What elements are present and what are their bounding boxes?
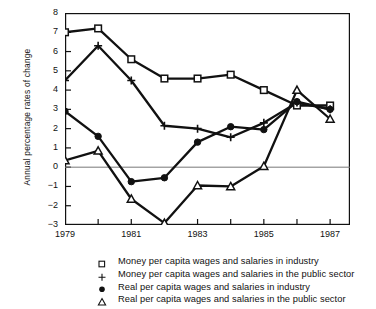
axis-frame xyxy=(66,14,350,225)
y-tick-label: 5 xyxy=(36,65,58,75)
data-point xyxy=(327,106,333,112)
data-point xyxy=(260,162,268,169)
data-point xyxy=(261,126,267,132)
y-tick-label: 1 xyxy=(36,142,58,152)
y-tick-label: 0 xyxy=(36,161,58,171)
data-point xyxy=(161,75,168,82)
y-axis-title: Annual percentage rates of change xyxy=(22,12,32,222)
data-point xyxy=(294,98,300,104)
legend-label: Money per capita wages and salaries in i… xyxy=(118,256,319,266)
y-tick-label: −3 xyxy=(36,219,58,229)
legend-label: Money per capita wages and salaries in t… xyxy=(118,269,354,279)
open-triangle-symbol xyxy=(96,294,110,306)
plus-symbol xyxy=(96,269,110,281)
data-point xyxy=(95,25,102,32)
y-tick-label: −1 xyxy=(36,180,58,190)
chart-canvas xyxy=(65,13,350,225)
data-point xyxy=(65,29,68,36)
x-tick-label: 1979 xyxy=(45,229,85,239)
x-tick-label: 1985 xyxy=(244,229,284,239)
data-point xyxy=(261,87,268,94)
series-line xyxy=(65,28,330,105)
series-line xyxy=(65,90,330,223)
y-tick-label: 8 xyxy=(36,7,58,17)
chart-figure: Annual percentage rates of change −3−2−1… xyxy=(0,0,376,309)
legend-label: Real per capita wages and salaries in th… xyxy=(118,294,346,304)
x-tick-label: 1983 xyxy=(178,229,218,239)
legend-label: Real per capita wages and salaries in in… xyxy=(118,282,310,292)
data-point xyxy=(128,56,135,63)
y-tick-label: 2 xyxy=(36,123,58,133)
plot-area xyxy=(65,13,350,225)
y-tick-label: 4 xyxy=(36,84,58,94)
y-tick-label: 7 xyxy=(36,26,58,36)
data-point xyxy=(161,175,167,181)
series-markers xyxy=(65,25,334,225)
filled-circle-symbol xyxy=(96,281,110,293)
axis-ticks xyxy=(65,13,330,225)
legend-item: Real per capita wages and salaries in th… xyxy=(96,294,366,307)
data-point xyxy=(94,147,102,154)
y-tick-label: 3 xyxy=(36,103,58,113)
data-point xyxy=(194,75,201,82)
y-tick-label: 6 xyxy=(36,46,58,56)
chart-legend: Money per capita wages and salaries in i… xyxy=(96,256,366,306)
data-point xyxy=(194,181,202,188)
series-line xyxy=(65,46,330,138)
data-point xyxy=(227,133,235,141)
legend-item: Money per capita wages and salaries in t… xyxy=(96,269,366,282)
legend-item: Real per capita wages and salaries in in… xyxy=(96,281,366,294)
y-tick-label: −2 xyxy=(36,200,58,210)
data-point xyxy=(194,125,202,133)
data-point xyxy=(128,178,134,184)
data-point xyxy=(194,139,200,145)
data-point xyxy=(95,133,101,139)
data-point xyxy=(293,86,301,93)
legend-item: Money per capita wages and salaries in i… xyxy=(96,256,366,269)
data-point xyxy=(227,71,234,78)
x-tick-label: 1987 xyxy=(310,229,350,239)
data-point xyxy=(65,108,68,114)
x-tick-label: 1981 xyxy=(111,229,151,239)
data-point xyxy=(227,124,233,130)
open-square-symbol xyxy=(96,256,110,268)
